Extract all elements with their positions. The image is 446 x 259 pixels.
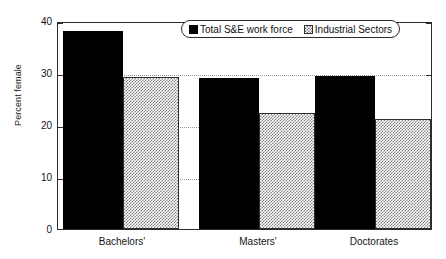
checkered-gray-swatch-icon: [304, 25, 313, 34]
bar-bachelors-industrial: [123, 77, 179, 229]
y-tick-20: 20: [22, 121, 52, 131]
bar-masters-total-se: [199, 78, 259, 229]
bar-doctorates-total-se: [315, 76, 375, 229]
y-tick-10: 10: [22, 173, 52, 183]
plot-area: [57, 22, 432, 230]
bar-masters-industrial: [259, 113, 315, 229]
y-tick-30: 30: [22, 69, 52, 79]
solid-black-swatch-icon: [189, 25, 198, 34]
tick-left-40: [58, 23, 63, 24]
legend-entry-total-se: Total S&E work force: [189, 24, 293, 35]
bar-chart-figure: Percent female 40 30 20 10 0: [0, 0, 446, 259]
legend-label-industrial: Industrial Sectors: [315, 24, 392, 35]
tick-right-40: [426, 23, 431, 24]
bar-bachelors-total-se: [63, 31, 123, 229]
y-tick-0: 0: [22, 225, 52, 235]
legend-entry-industrial: Industrial Sectors: [304, 24, 392, 35]
tick-right-30: [426, 75, 431, 76]
y-tick-40: 40: [22, 17, 52, 27]
y-axis-title: Percent female: [13, 15, 23, 175]
x-tick-bachelors: Bachelors': [62, 236, 182, 247]
x-tick-masters: Masters': [198, 236, 318, 247]
bar-doctorates-industrial: [375, 119, 431, 229]
chart-legend: Total S&E work force Industrial Sectors: [181, 20, 400, 38]
x-tick-doctorates: Doctorates: [314, 236, 434, 247]
legend-label-total-se: Total S&E work force: [200, 24, 293, 35]
